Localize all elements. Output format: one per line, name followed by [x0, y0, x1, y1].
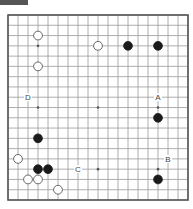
- position-label-b: B: [165, 155, 170, 164]
- white-stone: [14, 154, 23, 163]
- position-label-c: C: [75, 165, 81, 174]
- star-point: [37, 106, 40, 109]
- black-stone: [154, 175, 163, 184]
- white-stone: [94, 41, 103, 50]
- black-stone: [34, 165, 43, 174]
- white-stone: [24, 175, 33, 184]
- star-point: [157, 106, 160, 109]
- white-stone: [34, 62, 43, 71]
- black-stone: [34, 134, 43, 143]
- white-stone: [54, 185, 63, 194]
- white-stone: [34, 31, 43, 40]
- star-point: [37, 45, 40, 48]
- star-point: [97, 168, 100, 171]
- black-stone: [154, 41, 163, 50]
- black-stone: [44, 165, 53, 174]
- star-point: [157, 168, 160, 171]
- black-stone: [124, 41, 133, 50]
- position-label-d: D: [25, 93, 31, 102]
- go-board: DABC: [0, 0, 193, 209]
- white-stone: [34, 175, 43, 184]
- black-stone: [154, 113, 163, 122]
- star-point: [97, 106, 100, 109]
- position-label-a: A: [155, 93, 161, 102]
